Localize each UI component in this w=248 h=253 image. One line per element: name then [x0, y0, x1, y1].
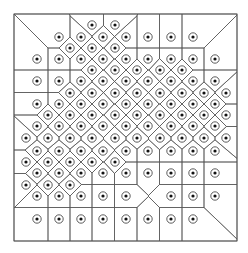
site-dot: [113, 160, 116, 163]
site-marker-icon: [44, 158, 52, 166]
site-marker-icon: [88, 66, 96, 74]
site-marker-icon: [189, 147, 197, 155]
site-dot: [113, 136, 116, 139]
site-marker-icon: [77, 169, 85, 177]
site-dot: [68, 183, 71, 186]
site-dot: [113, 68, 116, 71]
voronoi-cell: [204, 162, 237, 185]
site-marker-icon: [33, 147, 41, 155]
site-marker-icon: [88, 89, 96, 97]
site-dot: [146, 124, 149, 127]
site-dot: [213, 194, 216, 197]
site-marker-icon: [178, 89, 186, 97]
site-marker-icon: [99, 169, 107, 177]
site-marker-icon: [99, 122, 107, 130]
site-dot: [24, 160, 27, 163]
site-dot: [57, 217, 60, 220]
site-marker-icon: [88, 44, 96, 52]
site-marker-icon: [33, 77, 41, 85]
site-marker-icon: [189, 77, 197, 85]
site-dot: [35, 171, 38, 174]
site-dot: [191, 35, 194, 38]
site-marker-icon: [144, 122, 152, 130]
site-marker-icon: [55, 55, 63, 63]
site-dot: [90, 68, 93, 71]
site-dot: [46, 160, 49, 163]
site-marker-icon: [167, 169, 175, 177]
site-marker-icon: [133, 89, 141, 97]
site-marker-icon: [211, 100, 219, 108]
site-marker-icon: [111, 134, 119, 142]
site-dot: [191, 194, 194, 197]
site-marker-icon: [189, 169, 197, 177]
site-marker-icon: [189, 122, 197, 130]
site-dot: [113, 91, 116, 94]
site-marker-icon: [211, 169, 219, 177]
site-marker-icon: [99, 100, 107, 108]
site-marker-icon: [167, 147, 175, 155]
site-dot: [169, 57, 172, 60]
site-dot: [224, 91, 227, 94]
site-marker-icon: [22, 181, 30, 189]
site-dot: [68, 91, 71, 94]
site-dot: [146, 79, 149, 82]
site-marker-icon: [156, 134, 164, 142]
voronoi-cell: [69, 14, 103, 36]
site-marker-icon: [144, 33, 152, 41]
site-marker-icon: [200, 134, 208, 142]
site-dot: [191, 57, 194, 60]
site-dot: [202, 91, 205, 94]
site-dot: [169, 79, 172, 82]
site-dot: [113, 23, 116, 26]
site-dot: [113, 113, 116, 116]
site-marker-icon: [33, 122, 41, 130]
site-marker-icon: [122, 100, 130, 108]
site-marker-icon: [178, 111, 186, 119]
site-marker-icon: [99, 215, 107, 223]
site-marker-icon: [189, 55, 197, 63]
site-dot: [101, 35, 104, 38]
site-marker-icon: [55, 169, 63, 177]
site-dot: [213, 149, 216, 152]
site-dot: [224, 136, 227, 139]
site-marker-icon: [133, 134, 141, 142]
site-marker-icon: [55, 100, 63, 108]
site-marker-icon: [122, 33, 130, 41]
site-marker-icon: [189, 33, 197, 41]
site-marker-icon: [144, 77, 152, 85]
site-dot: [35, 102, 38, 105]
site-marker-icon: [122, 192, 130, 200]
site-marker-icon: [99, 33, 107, 41]
voronoi-cell: [14, 70, 48, 93]
site-dot: [24, 183, 27, 186]
site-marker-icon: [55, 147, 63, 155]
site-marker-icon: [88, 158, 96, 166]
voronoi-cell: [70, 16, 92, 48]
site-dot: [79, 124, 82, 127]
site-marker-icon: [156, 89, 164, 97]
site-dot: [124, 171, 127, 174]
site-dot: [57, 57, 60, 60]
site-marker-icon: [111, 158, 119, 166]
site-dot: [191, 149, 194, 152]
site-marker-icon: [55, 192, 63, 200]
site-dot: [35, 194, 38, 197]
site-marker-icon: [44, 134, 52, 142]
site-dot: [101, 102, 104, 105]
site-marker-icon: [66, 181, 74, 189]
site-dot: [79, 102, 82, 105]
site-marker-icon: [167, 122, 175, 130]
site-dot: [191, 102, 194, 105]
site-marker-icon: [189, 100, 197, 108]
site-marker-icon: [33, 55, 41, 63]
site-dot: [146, 217, 149, 220]
site-marker-icon: [156, 111, 164, 119]
site-dot: [68, 136, 71, 139]
site-dot: [90, 46, 93, 49]
site-marker-icon: [33, 100, 41, 108]
site-marker-icon: [211, 192, 219, 200]
site-dot: [35, 149, 38, 152]
site-marker-icon: [144, 55, 152, 63]
site-dot: [68, 46, 71, 49]
site-marker-icon: [66, 158, 74, 166]
